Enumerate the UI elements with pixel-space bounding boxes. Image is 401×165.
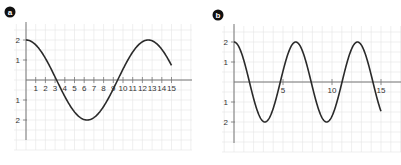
badge-label-b: b — [216, 11, 221, 20]
x-tick-label: 2 — [43, 84, 48, 93]
x-tick-label: 15 — [377, 86, 386, 95]
y-tick-label: 2 — [224, 38, 229, 47]
y-tick-label: 1 — [16, 96, 21, 105]
x-tick-label: 11 — [129, 84, 138, 93]
badge-a: a — [5, 7, 16, 18]
x-tick-label: 7 — [92, 84, 97, 93]
y-tick-label: 2 — [16, 36, 21, 45]
x-tick-label: 8 — [101, 84, 106, 93]
x-tick-label: 10 — [328, 86, 337, 95]
x-tick-label: 13 — [148, 84, 157, 93]
x-tick-label: 3 — [53, 84, 58, 93]
badge-b: b — [213, 10, 224, 21]
x-tick-label: 15 — [167, 84, 176, 93]
x-tick-label: 10 — [119, 84, 128, 93]
x-tick-label: 14 — [157, 84, 166, 93]
y-tick-label: 1 — [224, 58, 229, 67]
badge-label-a: a — [8, 8, 13, 17]
figure: a 1234567891011121314152112 b 510152112 — [0, 0, 401, 165]
x-tick-label: 12 — [138, 84, 147, 93]
chart-panel-a: a 1234567891011121314152112 — [5, 7, 193, 151]
y-tick-label: 2 — [16, 116, 21, 125]
x-tick-label: 5 — [72, 84, 77, 93]
chart-panel-b: b 510152112 — [213, 10, 401, 153]
x-tick-label: 6 — [82, 84, 87, 93]
x-tick-label: 1 — [33, 84, 38, 93]
x-tick-label: 5 — [281, 86, 286, 95]
x-tick-label: 4 — [63, 84, 68, 93]
y-tick-label: 1 — [16, 56, 21, 65]
y-tick-label: 2 — [224, 118, 229, 127]
y-tick-label: 1 — [224, 98, 229, 107]
